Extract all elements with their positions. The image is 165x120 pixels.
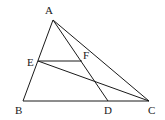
label-E: E bbox=[27, 56, 34, 68]
point-labels: A E F B D C bbox=[15, 4, 155, 116]
triangle-diagram: A E F B D C bbox=[0, 0, 165, 120]
label-B: B bbox=[15, 104, 22, 116]
segment-EC bbox=[38, 61, 149, 101]
label-A: A bbox=[45, 4, 53, 16]
label-F: F bbox=[83, 49, 89, 61]
label-C: C bbox=[148, 104, 155, 116]
label-D: D bbox=[104, 104, 112, 116]
